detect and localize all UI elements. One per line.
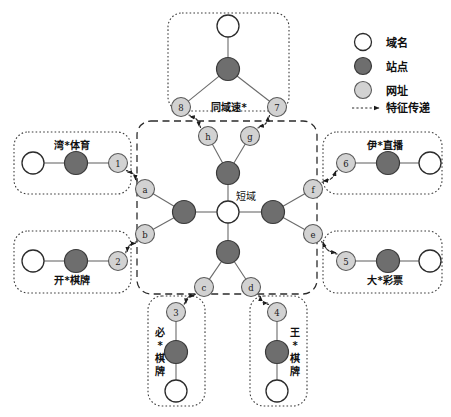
node-u-f[interactable]: f bbox=[304, 180, 323, 199]
node-label-u-g: g bbox=[247, 132, 253, 142]
node-u-e[interactable]: e bbox=[304, 225, 323, 244]
cluster-label-right-upper: 伊*直播 bbox=[366, 139, 403, 151]
cluster-label-left-upper: 湾*体育 bbox=[54, 139, 89, 151]
legend: 域名 站点 网址 特征传递 bbox=[352, 34, 430, 115]
node-ru-domain[interactable] bbox=[419, 152, 441, 174]
node-label-u-8: 8 bbox=[178, 103, 183, 113]
node-s-rt[interactable] bbox=[262, 201, 285, 224]
edge-s-lf-u-b bbox=[153, 217, 175, 229]
node-ll-domain[interactable] bbox=[22, 250, 44, 272]
cluster-label-left-lower: 开*棋牌 bbox=[54, 274, 89, 286]
node-s-up[interactable] bbox=[217, 162, 240, 185]
node-br-station[interactable] bbox=[266, 341, 289, 364]
cluster-labels: 同域速* 湾*体育 开*棋牌 伊*直播 大*彩票 必*棋牌 王*棋牌 短域 bbox=[54, 101, 403, 378]
diagram-root: hgabfecd87126534 同域速* 湾*体育 开*棋牌 伊*直播 大*彩… bbox=[0, 0, 451, 417]
station-circle-icon bbox=[165, 341, 188, 364]
hub-label: 短域 bbox=[236, 190, 256, 202]
domain-circle-icon bbox=[419, 152, 441, 174]
legend-station-circle-icon bbox=[355, 58, 372, 75]
domain-circle-icon bbox=[217, 201, 239, 223]
edge-t-station-u-8 bbox=[188, 76, 219, 101]
cluster-label-right-lower: 大*彩票 bbox=[367, 274, 402, 286]
node-u-6[interactable]: 6 bbox=[337, 154, 356, 173]
station-circle-icon bbox=[65, 152, 88, 175]
edge-s-dn-u-d bbox=[234, 261, 246, 279]
edge-t-station-u-7 bbox=[237, 76, 270, 102]
node-layer: hgabfecd87126534 bbox=[22, 15, 441, 402]
node-label-u-a: a bbox=[142, 185, 147, 195]
node-u-h[interactable]: h bbox=[199, 127, 218, 146]
node-label-u-2: 2 bbox=[115, 257, 120, 267]
cluster-label-bottom-left: 必*棋牌 bbox=[154, 326, 165, 377]
edge-s-up-u-g bbox=[234, 144, 246, 164]
domain-circle-icon bbox=[419, 250, 441, 272]
node-u-2[interactable]: 2 bbox=[109, 252, 128, 271]
legend-label-url: 网址 bbox=[386, 84, 408, 98]
edge-s-up-u-h bbox=[212, 144, 222, 163]
node-label-u-3: 3 bbox=[173, 308, 178, 318]
domain-circle-icon bbox=[22, 152, 44, 174]
node-u-c[interactable]: c bbox=[195, 278, 214, 297]
node-u-b[interactable]: b bbox=[136, 225, 155, 244]
station-circle-icon bbox=[377, 152, 400, 175]
node-rl-domain[interactable] bbox=[419, 250, 441, 272]
edge-s-rt-u-f bbox=[283, 193, 306, 206]
cluster-label-top: 同域速* bbox=[211, 101, 247, 113]
node-hub[interactable] bbox=[217, 201, 239, 223]
station-circle-icon bbox=[217, 241, 240, 264]
node-u-8[interactable]: 8 bbox=[172, 98, 191, 117]
legend-label-station: 站点 bbox=[386, 60, 408, 74]
node-u-4[interactable]: 4 bbox=[268, 303, 287, 322]
edge-s-dn-u-c bbox=[209, 261, 222, 280]
feature-edge-u-b-to-u-2 bbox=[127, 242, 137, 252]
station-circle-icon bbox=[266, 341, 289, 364]
edge-s-lf-u-a bbox=[153, 194, 175, 207]
network-diagram: hgabfecd87126534 同域速* 湾*体育 开*棋牌 伊*直播 大*彩… bbox=[0, 0, 451, 417]
node-ru-station[interactable] bbox=[377, 152, 400, 175]
node-u-g[interactable]: g bbox=[241, 127, 260, 146]
cluster-label-bottom-right: 王*棋牌 bbox=[289, 327, 300, 377]
node-br-domain[interactable] bbox=[266, 380, 288, 402]
node-bl-domain[interactable] bbox=[165, 380, 187, 402]
node-lu-station[interactable] bbox=[65, 152, 88, 175]
node-label-u-h: h bbox=[205, 132, 211, 142]
domain-circle-icon bbox=[217, 15, 239, 37]
node-lu-domain[interactable] bbox=[22, 152, 44, 174]
node-t-domain[interactable] bbox=[217, 15, 239, 37]
node-label-u-d: d bbox=[248, 283, 254, 293]
legend-domain-circle-icon bbox=[355, 34, 372, 51]
node-label-u-1: 1 bbox=[115, 159, 120, 169]
feature-edge-u-h-to-u-8 bbox=[190, 117, 201, 128]
node-t-station[interactable] bbox=[217, 58, 240, 81]
station-circle-icon bbox=[217, 162, 240, 185]
node-label-u-b: b bbox=[142, 230, 148, 240]
node-s-lf[interactable] bbox=[173, 201, 196, 224]
feature-edge-u-4-to-u-d bbox=[260, 296, 269, 304]
legend-label-domain: 域名 bbox=[386, 36, 408, 50]
node-rl-station[interactable] bbox=[377, 250, 400, 273]
legend-url-circle-icon bbox=[355, 82, 372, 99]
node-u-5[interactable]: 5 bbox=[337, 252, 356, 271]
station-circle-icon bbox=[217, 58, 240, 81]
node-u-7[interactable]: 7 bbox=[268, 98, 287, 117]
feature-edge-u-g-to-u-7 bbox=[257, 117, 268, 128]
node-s-dn[interactable] bbox=[217, 241, 240, 264]
node-label-u-5: 5 bbox=[343, 257, 348, 267]
node-u-d[interactable]: d bbox=[242, 278, 261, 297]
node-u-a[interactable]: a bbox=[136, 180, 155, 199]
node-u-3[interactable]: 3 bbox=[167, 303, 186, 322]
station-circle-icon bbox=[262, 201, 285, 224]
node-label-u-4: 4 bbox=[274, 308, 279, 318]
station-circle-icon bbox=[173, 201, 196, 224]
station-circle-icon bbox=[65, 250, 88, 273]
node-u-1[interactable]: 1 bbox=[109, 154, 128, 173]
node-label-u-e: e bbox=[310, 230, 315, 240]
node-label-u-6: 6 bbox=[343, 159, 348, 169]
station-circle-icon bbox=[377, 250, 400, 273]
node-bl-station[interactable] bbox=[165, 341, 188, 364]
node-label-u-7: 7 bbox=[274, 103, 279, 113]
node-label-u-c: c bbox=[202, 283, 207, 293]
node-ll-station[interactable] bbox=[65, 250, 88, 273]
domain-circle-icon bbox=[22, 250, 44, 272]
domain-circle-icon bbox=[266, 380, 288, 402]
